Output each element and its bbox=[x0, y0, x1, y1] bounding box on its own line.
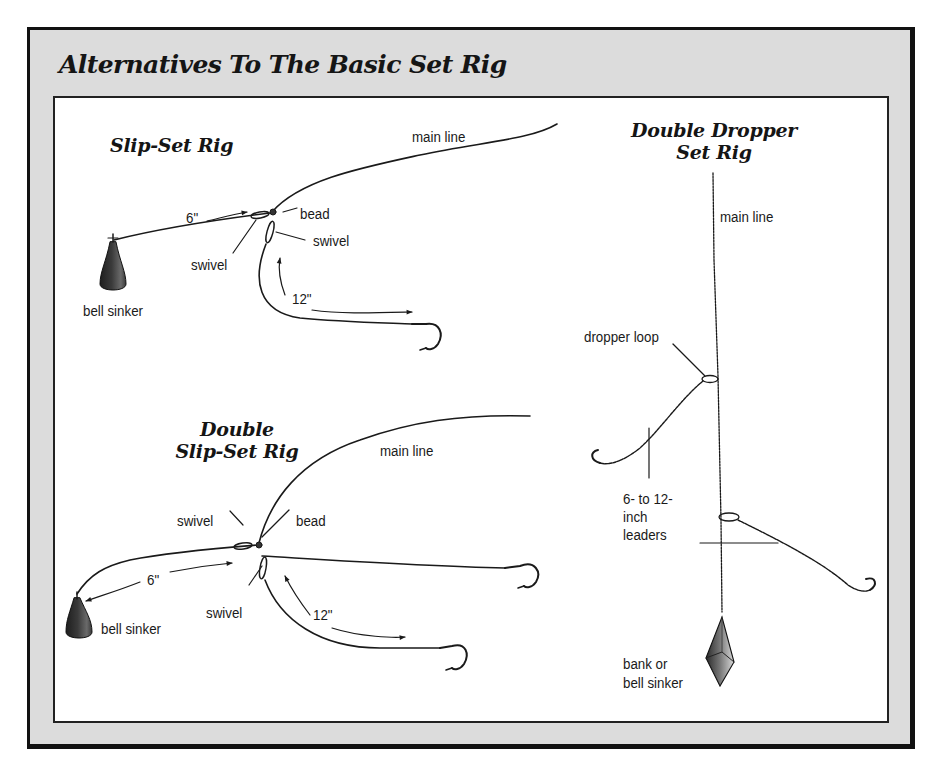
rig-illustrations bbox=[0, 0, 944, 776]
label-bead: bead bbox=[300, 205, 330, 222]
label-six-inch: 6" bbox=[186, 209, 198, 226]
double-dropper-title-line1: Double Dropper bbox=[607, 119, 821, 141]
bell-sinker-icon bbox=[100, 242, 126, 290]
label-swivel-left: swivel bbox=[191, 256, 227, 273]
label-leaders-line3: leaders bbox=[623, 526, 673, 544]
label-swivel-bottom: swivel bbox=[206, 604, 242, 621]
bell-sinker-icon bbox=[66, 598, 92, 638]
double-slip-set-title-line1: Double bbox=[157, 418, 317, 440]
main-line bbox=[713, 173, 722, 612]
swivel-icon bbox=[264, 221, 275, 244]
dropper-loop-icon bbox=[702, 376, 718, 383]
bead-icon bbox=[270, 209, 276, 215]
sinker-line bbox=[77, 545, 258, 594]
fish-hook-icon bbox=[592, 450, 600, 463]
double-slip-set-rig-title: Double Slip-Set Rig bbox=[157, 418, 317, 462]
label-sinker-line2: bell sinker bbox=[623, 673, 683, 692]
leader-line-lower bbox=[265, 580, 440, 648]
label-twelve-inch: 12" bbox=[313, 606, 333, 623]
label-dropper-loop: dropper loop bbox=[584, 328, 659, 345]
label-bead: bead bbox=[296, 512, 326, 529]
label-six-inch: 6" bbox=[147, 571, 159, 588]
bank-sinker-icon bbox=[706, 617, 734, 686]
fish-hook-icon bbox=[412, 324, 441, 349]
slip-set-rig-title: Slip-Set Rig bbox=[110, 134, 233, 156]
label-main-line: main line bbox=[412, 128, 465, 145]
label-leaders: 6- to 12- inch leaders bbox=[623, 490, 673, 544]
label-bell-sinker: bell sinker bbox=[101, 620, 161, 637]
bead-icon bbox=[256, 542, 262, 548]
leader-line-upper bbox=[262, 556, 505, 568]
fish-hook-icon bbox=[866, 578, 875, 590]
double-slip-set-title-line2: Slip-Set Rig bbox=[157, 440, 317, 462]
double-dropper-title-line2: Set Rig bbox=[607, 141, 821, 163]
label-leaders-line2: inch bbox=[623, 508, 673, 526]
label-main-line: main line bbox=[720, 208, 773, 225]
label-swivel-right: swivel bbox=[313, 232, 349, 249]
label-swivel-top: swivel bbox=[177, 512, 213, 529]
dropper-loop-icon bbox=[719, 513, 739, 521]
label-twelve-inch: 12" bbox=[292, 290, 312, 307]
fish-hook-icon bbox=[440, 645, 467, 669]
fish-hook-icon bbox=[505, 564, 538, 587]
label-sinker-line1: bank or bbox=[623, 654, 683, 673]
label-bank-or-bell-sinker: bank or bell sinker bbox=[623, 654, 683, 692]
label-main-line: main line bbox=[380, 442, 433, 459]
label-leaders-line1: 6- to 12- bbox=[623, 490, 673, 508]
leader-line bbox=[738, 520, 870, 591]
leader-line bbox=[600, 381, 703, 464]
label-bell-sinker: bell sinker bbox=[83, 302, 143, 319]
double-dropper-rig-title: Double Dropper Set Rig bbox=[607, 119, 821, 163]
swivel-icon bbox=[258, 557, 268, 580]
double-dropper-rig-drawing bbox=[592, 173, 875, 686]
